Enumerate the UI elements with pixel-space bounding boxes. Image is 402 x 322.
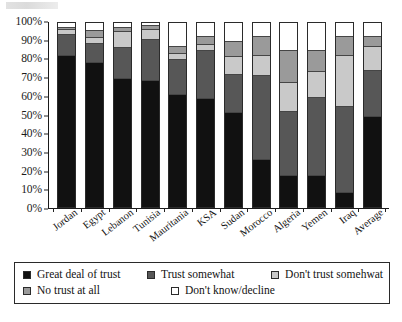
stacked-bar[interactable] [85,22,104,208]
bar-segment [253,75,270,159]
y-axis-tick-label: 50% [21,110,42,122]
bar-segment [308,71,325,97]
bar-segment [225,112,242,207]
legend-item[interactable]: Great deal of trust [23,269,147,281]
bar-segment [197,23,214,36]
bar-slot [331,22,359,208]
stacked-bar[interactable] [168,22,187,208]
bar-segment [308,97,325,175]
bar-slot [303,22,331,208]
bar-segment [280,111,297,175]
legend-row-2: No trust at allDon't know/decline [23,283,383,299]
category-label-slot: Algeria [275,210,303,258]
bar-group [49,22,389,208]
legend-swatch [23,287,31,295]
bar-segment [336,55,353,106]
bar-segment [280,23,297,50]
bar-segment [308,23,325,50]
plot-area: 100%90%80%70%60%50%40%30%20%10%0% [0,14,402,214]
bar-segment [197,50,214,98]
legend-label: Trust somewhat [161,269,234,281]
stacked-bar[interactable] [141,22,160,208]
stacked-bar[interactable] [363,22,382,208]
bar-segment [114,47,131,79]
bar-segment [58,55,75,207]
bar-slot [275,22,303,208]
stacked-bar[interactable] [335,22,354,208]
y-axis-tick-label: 0% [27,203,42,215]
bar-segment [86,43,103,62]
y-axis: 100%90%80%70%60%50%40%30%20%10%0% [0,14,48,210]
stacked-bar[interactable] [307,22,326,208]
category-label-slot: Yemen [302,210,330,258]
bar-slot [81,22,109,208]
bar-slot [136,22,164,208]
category-label-text: Jordan [51,207,80,233]
bar-slot [53,22,81,208]
bar-segment [336,23,353,36]
stacked-bar[interactable] [224,22,243,208]
y-axis-tick-label: 10% [21,185,42,197]
chart-figure: 100%90%80%70%60%50%40%30%20%10%0% Jordan… [0,0,402,322]
scan-artifact [6,2,58,9]
stacked-bar[interactable] [57,22,76,208]
legend-label: Don't trust somehwat [285,269,383,281]
bar-segment [169,23,186,46]
y-axis-tick-label: 90% [21,35,42,47]
bar-slot [109,22,137,208]
bar-segment [253,23,270,36]
y-axis-tick-label: 20% [21,166,42,178]
bar-segment [225,74,242,113]
bar-slot [247,22,275,208]
bar-segment [364,46,381,70]
bar-segment [364,23,381,36]
y-axis-tick-label: 80% [21,54,42,66]
legend-item[interactable]: Don't trust somehwat [271,269,383,281]
category-label-slot: Mauritania [163,210,191,258]
category-label-slot: KSA [191,210,219,258]
bar-segment [336,106,353,192]
legend-swatch [147,271,155,279]
stacked-bar[interactable] [252,22,271,208]
y-axis-tick-label: 30% [21,147,42,159]
bar-segment [280,50,297,82]
bar-slot [220,22,248,208]
bar-slot [358,22,386,208]
bar-segment [225,56,242,73]
bar-segment [142,29,159,39]
bar-segment [86,62,103,207]
bar-segment [86,23,103,30]
bar-segment [364,70,381,116]
bar-segment [336,36,353,55]
category-label-slot: Jordan [52,210,80,258]
bar-segment [364,36,381,46]
bar-segment [114,78,131,207]
bar-segment [253,55,270,76]
legend-swatch [171,287,179,295]
bar-segment [253,36,270,55]
legend-row-1: Great deal of trustTrust somewhatDon't t… [23,267,383,283]
category-label-text: Iraq [338,207,358,226]
legend-item[interactable]: Trust somewhat [147,269,271,281]
category-label-text: KSA [196,207,219,228]
bar-segment [114,31,131,46]
stacked-bar[interactable] [113,22,132,208]
bar-slot [164,22,192,208]
bar-segment [58,34,75,55]
bar-slot [192,22,220,208]
bar-segment [308,50,325,71]
category-label-slot: Morocco [247,210,275,258]
category-label-slot: Iraq [330,210,358,258]
bar-segment [364,116,381,207]
legend-item[interactable]: Don't know/decline [171,285,319,297]
y-axis-tick-label: 40% [21,128,42,140]
plot-canvas [48,22,389,209]
legend-swatch [23,271,31,279]
stacked-bar[interactable] [279,22,298,208]
stacked-bar[interactable] [196,22,215,208]
legend-label: Great deal of trust [37,269,120,281]
category-label-slot: Lebanon [108,210,136,258]
bar-segment [197,36,214,44]
bar-segment [169,94,186,207]
legend-item[interactable]: No trust at all [23,285,171,297]
